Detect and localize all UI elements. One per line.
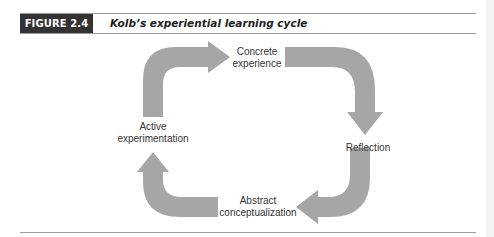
- node-active-line1: Active: [117, 121, 188, 133]
- node-reflection: Reflection: [346, 142, 390, 154]
- arrow-concrete-to-reflection: [285, 47, 383, 135]
- node-abstract-conceptualization: Abstract conceptualization: [219, 195, 296, 219]
- node-concrete-experience: Concrete experience: [233, 46, 282, 70]
- arrow-active-to-concrete: [143, 41, 230, 117]
- arrow-reflection-to-abstract: [296, 148, 370, 224]
- node-concrete-line2: experience: [233, 58, 282, 70]
- node-active-experimentation: Active experimentation: [117, 121, 188, 145]
- node-concrete-line1: Concrete: [233, 46, 282, 58]
- footer-rule: [20, 232, 476, 233]
- node-abstract-line1: Abstract: [219, 195, 296, 207]
- node-active-line2: experimentation: [117, 133, 188, 145]
- arrow-abstract-to-active: [137, 152, 218, 217]
- node-reflection-line1: Reflection: [346, 142, 390, 154]
- node-abstract-line2: conceptualization: [219, 207, 296, 219]
